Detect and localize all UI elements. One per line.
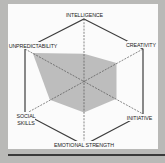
axis-label-social-skills-line1: SOCIAL: [17, 113, 36, 119]
axis-label-social-skills-line2: SKILLS: [17, 120, 35, 126]
axis-label-creativity: CREATIVITY: [126, 42, 156, 48]
data-area: [33, 53, 117, 113]
radar-chart: INTELLIGENCE CREATIVITY INITIATIVE EMOTI…: [0, 0, 165, 163]
axis-label-emotional-strength: EMOTIONAL STRENGTH: [54, 142, 114, 148]
axis-label-initiative: INITIATIVE: [127, 115, 153, 121]
axis-label-intelligence: INTELLIGENCE: [66, 12, 104, 18]
axis-label-unpredictability: UNPREDICTABILITY: [9, 43, 58, 49]
